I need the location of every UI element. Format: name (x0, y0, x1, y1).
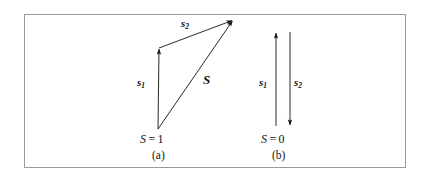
panel-label-b: (b) (272, 150, 285, 162)
vector-label-s1-panel-a-subscript: 1 (141, 81, 145, 90)
vector-label-s1-panel-b-subscript: 1 (263, 81, 267, 90)
vector-label-s1-panel-b: s1 (259, 77, 267, 90)
vector-arrow-s2-panel-a (159, 21, 232, 48)
state-value-panel-a: 1 (158, 132, 164, 146)
vector-label-s2-panel-a-subscript: 2 (185, 22, 189, 31)
vector-diagram-canvas (0, 0, 432, 192)
vector-label-s2-panel-b: s2 (294, 77, 302, 90)
state-label-panel-b: S = 0 (261, 133, 285, 145)
panel-label-a: (a) (152, 150, 165, 162)
vector-label-s2-panel-b-subscript: 2 (298, 81, 302, 90)
vector-arrow-s1-panel-a (158, 49, 159, 129)
state-label-panel-a: S = 1 (140, 133, 164, 145)
figure-root: s1 s2 S S = 1 (a) s1 s2 S = 0 (b) (0, 0, 432, 192)
vector-arrow-resultant-S-panel-a (158, 21, 232, 129)
state-value-panel-b: 0 (279, 132, 285, 146)
vector-label-s1-panel-a: s1 (137, 77, 145, 90)
vector-label-s2-panel-a: s2 (181, 18, 189, 31)
vector-label-resultant-S-panel-a: S (203, 73, 210, 86)
